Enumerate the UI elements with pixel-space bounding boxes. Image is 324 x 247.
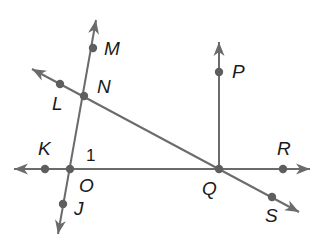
line-LS bbox=[32, 69, 299, 212]
angle-label-1: 1 bbox=[86, 146, 95, 165]
point-label-l: L bbox=[52, 93, 63, 114]
point-m-dot bbox=[89, 44, 97, 52]
point-label-k: K bbox=[38, 138, 52, 159]
arrowheads-layer bbox=[14, 20, 310, 234]
point-label-o: O bbox=[79, 175, 94, 196]
point-j-dot bbox=[59, 200, 67, 208]
point-p-dot bbox=[215, 68, 223, 76]
point-r-dot bbox=[279, 165, 287, 173]
point-label-p: P bbox=[232, 61, 245, 82]
point-label-m: M bbox=[104, 38, 120, 59]
point-l-dot bbox=[56, 80, 64, 88]
point-label-s: S bbox=[265, 205, 278, 226]
lines-layer bbox=[14, 20, 310, 234]
point-label-n: N bbox=[97, 76, 111, 97]
point-label-q: Q bbox=[202, 178, 217, 199]
point-label-r: R bbox=[277, 138, 291, 159]
point-k-dot bbox=[41, 165, 49, 173]
point-s-dot bbox=[268, 193, 276, 201]
geometry-diagram: MNLKOJPQRS1 bbox=[0, 0, 324, 247]
point-o-dot bbox=[66, 165, 74, 173]
point-label-j: J bbox=[73, 198, 84, 219]
point-q-dot bbox=[215, 165, 223, 173]
point-n-dot bbox=[80, 92, 88, 100]
